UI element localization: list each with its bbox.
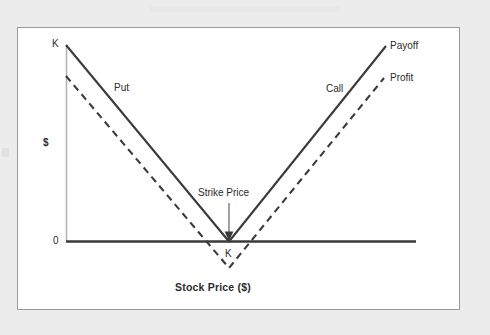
plot-area: K $ 0 K Put Call Payoff Profit Strike Pr… — [18, 28, 461, 311]
payoff-series-line — [66, 45, 386, 242]
page-background: K $ 0 K Put Call Payoff Profit Strike Pr… — [0, 0, 490, 335]
scan-artifact-left — [2, 148, 9, 157]
call-branch-label: Call — [326, 84, 343, 94]
y-axis-top-k-label: K — [52, 39, 59, 49]
scan-artifact-top — [150, 6, 340, 12]
strike-price-annotation-label: Strike Price — [198, 188, 249, 198]
payoff-series-label: Payoff — [390, 41, 418, 51]
x-axis-strike-k-label: K — [225, 249, 232, 259]
chart-svg — [18, 28, 461, 311]
zero-tick-label: 0 — [53, 236, 59, 246]
put-branch-label: Put — [114, 83, 129, 93]
figure-panel: K $ 0 K Put Call Payoff Profit Strike Pr… — [17, 27, 460, 310]
profit-series-line — [66, 76, 384, 268]
x-axis-title: Stock Price ($) — [175, 282, 251, 293]
y-axis-title: $ — [43, 138, 49, 148]
profit-series-label: Profit — [390, 73, 413, 83]
